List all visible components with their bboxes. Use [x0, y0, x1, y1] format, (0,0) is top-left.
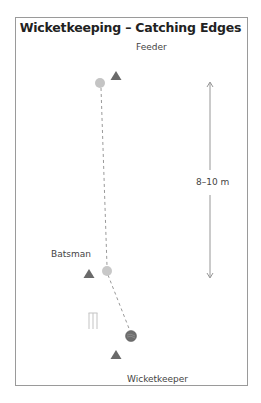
drill-diagram: [0, 0, 261, 403]
feeder-ball-icon: [95, 78, 105, 88]
edge-path-line: [108, 275, 130, 331]
batsman-ball-icon: [102, 266, 112, 276]
stumps-icon: [89, 313, 98, 329]
feeder-cone-icon: [111, 71, 122, 80]
batsman-cone-icon: [84, 269, 95, 278]
feed-path-line: [101, 88, 107, 266]
wicketkeeper-cone-icon: [111, 350, 122, 359]
distance-arrow-icon: [207, 82, 213, 278]
